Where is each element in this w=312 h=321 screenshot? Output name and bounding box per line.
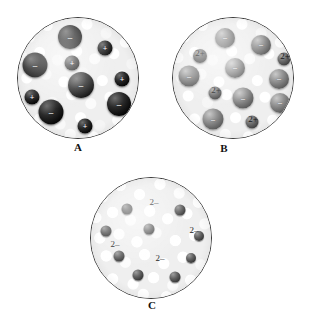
metal-sphere: –	[203, 109, 224, 130]
sphere-charge-glyph: +	[103, 44, 108, 52]
ion-sphere	[175, 205, 186, 216]
cation-sphere: +	[115, 72, 130, 87]
sphere-charge-glyph: –	[211, 115, 215, 123]
ion-sphere	[114, 251, 125, 262]
ion-sphere	[170, 272, 181, 283]
solution-disc: ––––––––2+2+2+2+	[172, 17, 294, 139]
cropped-header-text	[0, 0, 312, 9]
ion-sphere	[186, 253, 196, 263]
ion-sphere	[101, 226, 112, 237]
sphere-charge-glyph: –	[223, 34, 227, 42]
cation-sphere: +	[25, 90, 40, 105]
solution-disc: –+–+–++––+	[17, 17, 139, 139]
sphere-charge-glyph: +	[70, 59, 75, 67]
metal-sphere: –	[269, 69, 289, 89]
anion-sphere: –	[58, 25, 82, 49]
panel-label-b: B	[220, 142, 227, 154]
beaker-a: –+–+–++––+	[17, 17, 139, 139]
panel-label-c: C	[148, 299, 156, 311]
anion-sphere: –	[39, 100, 64, 125]
anion-sphere: –	[68, 72, 94, 98]
charge-2minus: 2–	[156, 253, 165, 263]
sphere-charge-glyph: –	[33, 61, 38, 70]
metal-sphere: –	[225, 58, 245, 78]
charge-2plus: 2+	[195, 48, 205, 58]
figure-canvas: –+–+–++––+A––––––––2+2+2+2+B2–2–2–2–C	[0, 0, 312, 321]
metal-sphere: –	[179, 66, 200, 87]
cation-sphere: +	[65, 56, 80, 71]
charge-2minus: 2–	[111, 239, 120, 249]
sphere-charge-glyph: –	[79, 81, 84, 90]
charge-2plus: 2+	[248, 114, 258, 124]
anion-sphere: –	[23, 53, 48, 78]
charge-2minus: 2–	[150, 197, 159, 207]
sphere-charge-glyph: –	[117, 100, 122, 109]
charge-2minus: 2–	[190, 225, 199, 235]
sphere-charge-glyph: –	[187, 72, 191, 80]
metal-sphere: –	[233, 88, 254, 109]
ion-sphere	[122, 204, 133, 215]
solution-disc: 2–2–2–2–	[90, 177, 212, 299]
sphere-charge-glyph: +	[30, 93, 35, 101]
cation-sphere: +	[78, 119, 93, 134]
metal-sphere: –	[215, 28, 235, 48]
metal-sphere: –	[251, 35, 271, 55]
panel-label-a: A	[74, 141, 82, 153]
sphere-charge-glyph: –	[278, 99, 282, 107]
beaker-c: 2–2–2–2–	[90, 177, 212, 299]
cation-sphere: +	[98, 41, 113, 56]
ion-sphere	[144, 224, 155, 235]
charge-2plus: 2+	[211, 85, 221, 95]
anion-sphere: –	[107, 92, 131, 116]
sphere-charge-glyph: –	[241, 94, 245, 102]
sphere-charge-glyph: –	[277, 75, 281, 83]
metal-sphere: –	[270, 93, 290, 113]
sphere-charge-glyph: –	[233, 64, 237, 72]
sphere-charge-glyph: –	[49, 108, 54, 117]
ion-sphere	[133, 270, 144, 281]
beaker-b: ––––––––2+2+2+2+	[172, 17, 294, 139]
charge-2plus: 2+	[280, 51, 290, 61]
sphere-charge-glyph: +	[120, 75, 125, 83]
sphere-charge-glyph: +	[83, 122, 88, 130]
sphere-charge-glyph: –	[259, 41, 263, 49]
sphere-charge-glyph: –	[68, 33, 73, 42]
